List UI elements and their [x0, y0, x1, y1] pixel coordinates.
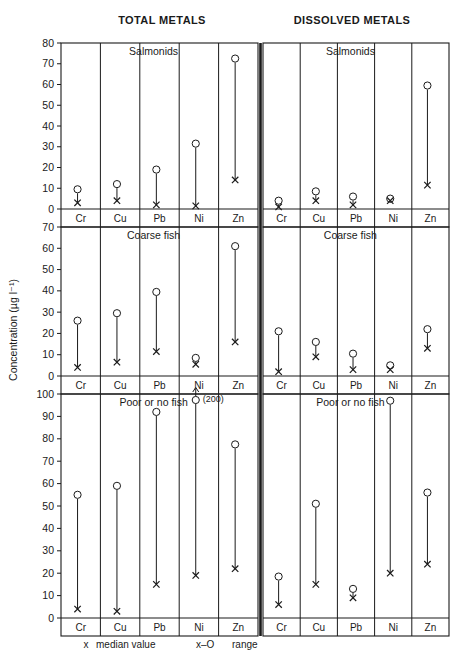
metals-concentration-figure: TOTAL METALS DISSOLVED METALS Concentrat…: [0, 0, 460, 660]
offscale-annotation: (200): [203, 394, 224, 404]
data-column-cu: [312, 500, 319, 587]
panel-title: Salmonids: [129, 45, 178, 57]
chart-panel: SalmonidsCrCuPbNiZn: [263, 43, 449, 227]
data-column-cu: [113, 181, 120, 204]
y-tick-label: 30: [42, 140, 54, 152]
x-axis-label-pb: Pb: [350, 622, 363, 633]
data-column-cu: [113, 310, 120, 366]
data-column-zn: [232, 243, 239, 346]
range-marker-circle: [312, 338, 319, 345]
y-tick-label: 50: [42, 263, 54, 275]
data-column-ni: [387, 362, 394, 373]
data-column-cr: [74, 491, 81, 612]
data-column-ni: [387, 195, 394, 204]
range-marker-circle: [424, 326, 431, 333]
chart-panel: 010203040506070Coarse fishCrCuPbNiZn: [42, 221, 258, 394]
data-column-pb: [153, 288, 160, 354]
x-axis-label-zn: Zn: [425, 213, 437, 224]
header-total-metals: TOTAL METALS: [118, 14, 206, 26]
data-column-zn: [232, 55, 239, 183]
range-marker-circle: [349, 193, 356, 200]
y-tick-label: 80: [42, 37, 54, 49]
x-axis-label-zn: Zn: [425, 380, 437, 391]
data-column-zn: [424, 82, 431, 188]
x-axis-label-ni: Ni: [388, 380, 397, 391]
x-axis-label-cr: Cr: [276, 213, 287, 224]
range-marker-circle: [153, 408, 160, 415]
data-column-zn: [424, 326, 431, 352]
x-axis-label-cu: Cu: [114, 622, 127, 633]
chart-panel: Coarse fishCrCuPbNiZn: [263, 227, 449, 394]
range-marker-circle: [113, 482, 120, 489]
data-column-cu: [312, 188, 319, 204]
x-axis-label-cr: Cr: [276, 622, 287, 633]
x-axis-label-cu: Cu: [114, 380, 127, 391]
range-marker-circle: [312, 500, 319, 507]
y-tick-label: 50: [42, 99, 54, 111]
y-tick-label: 30: [42, 544, 54, 556]
range-marker-circle: [192, 396, 199, 403]
range-marker-circle: [113, 181, 120, 188]
range-marker-circle: [312, 188, 319, 195]
x-axis-label-cu: Cu: [312, 213, 325, 224]
x-axis-label-pb: Pb: [350, 380, 363, 391]
range-marker-circle: [192, 140, 199, 147]
data-column-zn: [424, 489, 431, 567]
y-tick-label: 0: [48, 203, 54, 215]
range-marker-circle: [275, 197, 282, 204]
panel-title: Coarse fish: [324, 229, 377, 241]
x-axis-label-pb: Pb: [153, 622, 166, 633]
range-marker-circle: [349, 350, 356, 357]
data-column-cr: [74, 317, 81, 371]
y-tick-label: 40: [42, 120, 54, 132]
x-axis-label-ni: Ni: [388, 213, 397, 224]
x-axis-label-cr: Cr: [276, 380, 287, 391]
x-axis-label-ni: Ni: [194, 213, 203, 224]
y-tick-label: 0: [48, 370, 54, 382]
x-axis-label-cr: Cr: [75, 380, 86, 391]
x-axis-label-pb: Pb: [153, 213, 166, 224]
y-tick-label: 60: [42, 78, 54, 90]
y-tick-label: 70: [42, 57, 54, 69]
x-axis-label-zn: Zn: [232, 380, 244, 391]
data-column-cu: [312, 338, 319, 360]
data-column-cr: [275, 328, 282, 375]
y-tick-label: 20: [42, 161, 54, 173]
data-column-pb: [349, 585, 356, 601]
chart-legend: x median value x–O range: [84, 639, 259, 650]
y-tick-label: 100: [36, 388, 54, 400]
y-tick-label: 90: [42, 410, 54, 422]
panel-title: Poor or no fish: [316, 396, 384, 408]
panels-layer: 01020304050607080SalmonidsCrCuPbNiZnSalm…: [36, 37, 449, 636]
x-axis-label-cu: Cu: [312, 622, 325, 633]
range-marker-circle: [192, 354, 199, 361]
y-tick-label: 60: [42, 242, 54, 254]
y-tick-label: 40: [42, 522, 54, 534]
data-column-ni: [192, 140, 199, 209]
y-tick-label: 50: [42, 500, 54, 512]
panel-title: Salmonids: [326, 45, 375, 57]
y-tick-label: 20: [42, 567, 54, 579]
range-marker-circle: [113, 310, 120, 317]
data-column-cu: [113, 482, 120, 614]
x-axis-label-cu: Cu: [312, 380, 325, 391]
chart-panel: 01020304050607080SalmonidsCrCuPbNiZn: [42, 37, 258, 227]
x-axis-label-ni: Ni: [194, 622, 203, 633]
y-tick-label: 30: [42, 306, 54, 318]
range-marker-circle: [74, 491, 81, 498]
y-axis-title: Concentration (µg l⁻¹): [7, 279, 19, 381]
data-column-ni: [387, 397, 394, 576]
y-tick-label: 60: [42, 477, 54, 489]
panel-title: Poor or no fish: [119, 396, 187, 408]
y-tick-label: 10: [42, 182, 54, 194]
x-axis-label-zn: Zn: [232, 622, 244, 633]
range-marker-circle: [232, 441, 239, 448]
legend-median-text: median value: [96, 639, 156, 650]
y-tick-label: 70: [42, 221, 54, 233]
range-marker-circle: [349, 585, 356, 592]
y-tick-label: 10: [42, 348, 54, 360]
legend-median-symbol: x: [84, 639, 89, 650]
data-column-pb: [153, 166, 160, 208]
data-column-cr: [275, 197, 282, 210]
data-column-pb: [153, 408, 160, 587]
